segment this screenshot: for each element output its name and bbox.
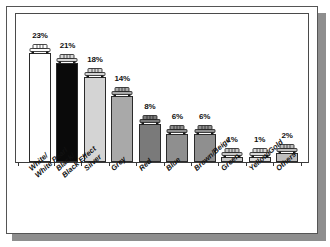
bar-value-label: 1% [254, 135, 265, 144]
bar-group[interactable]: 6% [166, 108, 188, 162]
car-icon [139, 112, 161, 123]
car-icon [29, 41, 51, 52]
car-icon [84, 65, 106, 76]
bar-value-label: 6% [199, 112, 210, 121]
bar-value-label: 21% [60, 41, 75, 50]
bar-red[interactable] [139, 124, 161, 162]
bar-value-label: 6% [172, 112, 183, 121]
bar-value-label: 8% [144, 102, 155, 111]
car-icon [166, 122, 188, 133]
x-axis-category-labels: White/White PearlBlack/Black EffectSilve… [16, 166, 308, 236]
car-icon [194, 122, 216, 133]
car-icon [111, 84, 133, 95]
bar-group[interactable]: 8% [139, 98, 161, 162]
bar-group[interactable]: 23% [29, 27, 51, 162]
car-icon [56, 51, 78, 62]
chart-figure: 23%21%18%14%8%6%6%1%1%2% White/White Pea… [0, 0, 330, 247]
bar-grey[interactable] [111, 96, 133, 162]
bar-value-label: 14% [115, 74, 130, 83]
bar-group[interactable]: 14% [111, 70, 133, 162]
bar-value-label: 23% [32, 31, 47, 40]
bar-value-label: 2% [281, 131, 292, 140]
bar-value-label: 18% [87, 55, 102, 64]
